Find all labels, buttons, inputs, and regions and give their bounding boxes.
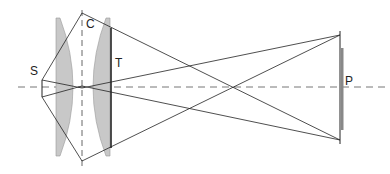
right-lens [93, 18, 110, 156]
left-lens [56, 18, 73, 156]
label-t: T [115, 56, 123, 70]
label-p: P [345, 74, 353, 88]
ray [82, 35, 340, 161]
plate [341, 48, 344, 130]
ray [82, 13, 340, 140]
ray [82, 86, 340, 140]
label-c: C [86, 17, 95, 31]
optical-diagram: S C T P [0, 0, 390, 174]
label-s: S [30, 64, 38, 78]
